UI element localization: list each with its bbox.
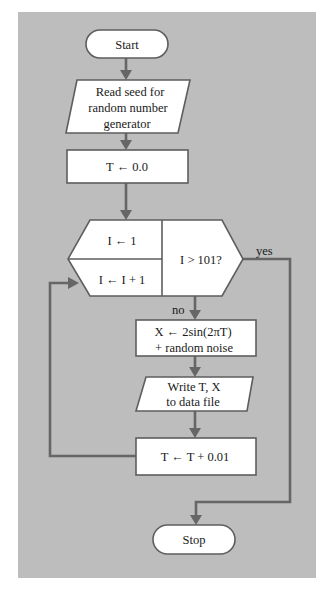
flowchart: Start Read seed for random number genera… (0, 0, 330, 589)
loop-hexagon: I ← 1 I ← I + 1 I > 101? (68, 220, 243, 296)
compute-x-process: X ← 2sin(2πT) + random noise (136, 320, 256, 356)
loop-init-label: I ← 1 (107, 234, 136, 248)
stop-terminator: Stop (153, 525, 235, 554)
start-label: Start (115, 38, 139, 52)
increment-t-label: T ← T + 0.01 (161, 450, 230, 464)
read-seed-line-3: generator (103, 117, 151, 131)
read-seed-line-2: random number (88, 101, 168, 115)
loop-condition-label: I > 101? (180, 253, 222, 267)
write-line-1: Write T, X (168, 380, 221, 394)
compute-x-line-1: X ← 2sin(2πT) (154, 325, 231, 339)
no-label: no (172, 303, 185, 317)
init-t-label: T ← 0.0 (106, 160, 148, 174)
write-data-io: Write T, X to data file (136, 377, 253, 411)
write-line-2: to data file (166, 395, 220, 409)
yes-label: yes (256, 244, 273, 258)
init-t-process: T ← 0.0 (67, 150, 188, 183)
stop-label: Stop (183, 533, 206, 547)
compute-x-line-2: + random noise (155, 341, 233, 355)
loop-increment-label: I ← I + 1 (99, 273, 146, 287)
read-seed-io: Read seed for random number generator (66, 80, 190, 133)
start-terminator: Start (86, 30, 168, 58)
increment-t-process: T ← T + 0.01 (136, 438, 256, 475)
read-seed-line-1: Read seed for (96, 85, 166, 99)
